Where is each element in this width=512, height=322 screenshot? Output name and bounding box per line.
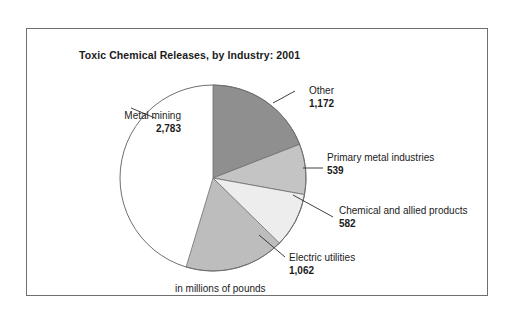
pie-label-metal-mining: Metal mining 2,783: [55, 109, 181, 135]
pie-label-other: Other 1,172: [309, 84, 334, 110]
chart-frame: Toxic Chemical Releases, by Industry: 20…: [26, 28, 488, 296]
pie-label-electric-utilities-value: 1,062: [289, 264, 355, 277]
pie-label-primary-metal-value: 539: [327, 164, 434, 177]
pie-label-electric-utilities-name: Electric utilities: [289, 252, 355, 263]
pie-label-electric-utilities: Electric utilities 1,062: [289, 251, 355, 277]
pie-label-chemical-value: 582: [339, 217, 467, 230]
pie-label-primary-metal: Primary metal industries 539: [327, 151, 434, 177]
pie-label-chemical-name: Chemical and allied products: [339, 205, 467, 216]
leader-line-other: [273, 91, 295, 103]
chart-footnote: in millions of pounds: [175, 283, 266, 294]
pie-label-other-value: 1,172: [309, 97, 334, 110]
pie-label-metal-mining-value: 2,783: [55, 122, 181, 135]
pie-label-other-name: Other: [309, 85, 334, 96]
pie-label-chemical: Chemical and allied products 582: [339, 204, 467, 230]
pie-label-primary-metal-name: Primary metal industries: [327, 152, 434, 163]
pie-label-metal-mining-name: Metal mining: [124, 110, 181, 121]
